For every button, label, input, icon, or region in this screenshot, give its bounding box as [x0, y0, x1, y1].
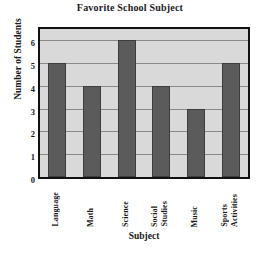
gridline	[40, 131, 248, 132]
bar	[222, 63, 240, 177]
x-axis-tick-label: SportsActivities	[211, 181, 246, 227]
y-axis-tick-label: 1	[20, 153, 35, 161]
x-axis-tick-label: Math	[73, 181, 108, 227]
x-axis-tick-label-line: Activities	[229, 194, 238, 227]
x-axis-tick-label-line: Social	[150, 206, 159, 227]
bar	[118, 40, 136, 177]
y-axis-tick-label: 3	[20, 108, 35, 116]
bar	[187, 109, 205, 177]
y-axis-tick-label: 6	[20, 39, 35, 47]
x-axis-tick-label-line: Language	[51, 192, 60, 227]
x-axis-tick-label-line: Studies	[160, 201, 169, 227]
gridline	[40, 40, 248, 41]
y-axis-tick-label: 5	[20, 62, 35, 70]
x-axis-tick-label: Language	[38, 181, 73, 227]
y-axis-tick-label: 4	[20, 85, 35, 93]
x-axis-label: Subject	[38, 231, 250, 241]
gridline	[40, 63, 248, 64]
y-axis-label: Number of Students	[7, 0, 21, 119]
y-axis-tick-label: 0	[20, 176, 35, 184]
x-axis-tick-label: Music	[177, 181, 212, 227]
chart-screenshot: Favorite School Subject Number of Studen…	[0, 0, 260, 256]
plot-inner	[40, 29, 248, 177]
x-axis-tick-label-line: Math	[85, 208, 94, 227]
gridline	[40, 86, 248, 87]
gridline	[40, 109, 248, 110]
x-axis-tick-label-line: Science	[120, 201, 129, 227]
x-axis-tick-label-line: Sports	[219, 204, 228, 227]
x-axis-tick-label: Science	[107, 181, 142, 227]
chart-title: Favorite School Subject	[0, 2, 260, 13]
plot-area	[38, 27, 250, 179]
x-axis-tick-labels: LanguageMathScienceSocialStudiesMusicSpo…	[38, 181, 250, 227]
x-axis-tick-label: SocialStudies	[142, 181, 177, 227]
bar	[152, 86, 170, 177]
y-axis-tick-label: 2	[20, 130, 35, 138]
bar	[83, 86, 101, 177]
x-axis-tick-label-line: Music	[189, 206, 198, 227]
gridline	[40, 154, 248, 155]
bar	[48, 63, 66, 177]
y-axis-tick-labels: 0123456	[20, 30, 35, 178]
